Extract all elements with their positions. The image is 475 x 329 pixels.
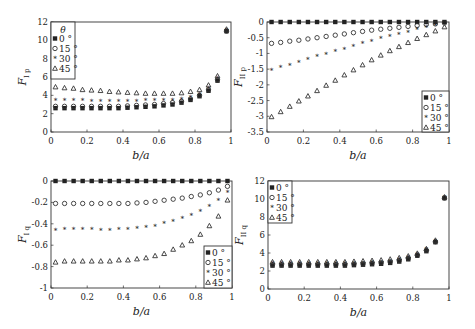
series-45deg xyxy=(53,27,229,96)
square-marker-icon xyxy=(108,179,112,183)
figure-canvas: 00.20.40.60.81024681012b/aFI p**********… xyxy=(0,0,475,329)
triangle-marker-icon xyxy=(424,32,429,36)
x-tick-label: 0.4 xyxy=(333,136,347,146)
star-marker-icon: * xyxy=(72,225,76,234)
circle-marker-icon xyxy=(269,41,273,45)
star-marker-icon: * xyxy=(99,226,103,235)
x-tick-label: 0.2 xyxy=(80,136,94,146)
circle-marker-icon xyxy=(288,39,292,43)
triangle-marker-icon xyxy=(107,259,112,263)
y-tick-label: 2 xyxy=(260,266,265,276)
triangle-marker-icon xyxy=(80,87,85,91)
triangle-marker-icon xyxy=(369,57,374,61)
star-marker-icon: * xyxy=(270,66,274,75)
circle-marker-icon xyxy=(379,27,383,31)
triangle-marker-icon xyxy=(62,259,67,263)
square-marker-icon xyxy=(388,20,392,24)
circle-marker-icon xyxy=(126,201,130,205)
triangle-marker-icon xyxy=(296,99,301,103)
y-axis-label: FII p xyxy=(232,67,247,88)
square-marker-icon xyxy=(90,179,94,183)
star-marker-icon: * xyxy=(90,97,94,106)
triangle-marker-icon xyxy=(98,259,103,263)
circle-marker-icon xyxy=(333,33,337,37)
y-tick-label: 6 xyxy=(260,230,265,240)
square-marker-icon xyxy=(379,20,383,24)
star-marker-icon: * xyxy=(333,47,337,56)
y-axis-label: FII q xyxy=(233,225,248,246)
star-marker-icon: * xyxy=(144,223,148,232)
circle-marker-icon xyxy=(315,36,319,40)
legend-square-marker-icon xyxy=(206,250,210,254)
series-15deg xyxy=(53,29,228,109)
triangle-marker-icon xyxy=(180,243,185,247)
legend: θ0 °15 °*30 °45 ° xyxy=(51,22,78,79)
legend-entry: 45 ° xyxy=(59,64,78,74)
star-marker-icon: * xyxy=(208,202,212,211)
circle-marker-icon xyxy=(135,201,139,205)
x-tick-label: 0.8 xyxy=(406,136,420,146)
y-tick-label: 12 xyxy=(254,176,265,186)
star-marker-icon: * xyxy=(297,58,301,67)
triangle-marker-icon xyxy=(152,91,157,95)
chart-panel-bl: 00.20.40.60.81-1-0.8-0.6-0.4-0.20b/aFI q… xyxy=(16,176,235,318)
y-axis-label: FI q xyxy=(16,225,31,244)
star-marker-icon: * xyxy=(180,214,184,223)
star-marker-icon: * xyxy=(171,96,175,105)
x-tick-label: 1 xyxy=(446,293,451,303)
square-marker-icon xyxy=(406,20,410,24)
legend-star-marker-icon: * xyxy=(424,113,428,122)
star-marker-icon: * xyxy=(352,42,356,51)
star-marker-icon: * xyxy=(306,55,310,64)
triangle-marker-icon xyxy=(134,90,139,94)
star-marker-icon: * xyxy=(379,34,383,43)
square-marker-icon xyxy=(80,179,84,183)
triangle-marker-icon xyxy=(153,253,158,257)
legend-square-marker-icon xyxy=(270,185,274,189)
y-tick-label: -0.6 xyxy=(32,240,48,250)
series-45deg xyxy=(53,198,230,264)
series-45deg xyxy=(269,24,447,118)
square-marker-icon xyxy=(278,20,282,24)
square-marker-icon xyxy=(306,20,310,24)
x-axis-label: b/a xyxy=(350,306,367,319)
star-marker-icon: * xyxy=(117,225,121,234)
star-marker-icon: * xyxy=(81,96,85,105)
star-marker-icon: * xyxy=(162,96,166,105)
square-marker-icon xyxy=(207,179,211,183)
circle-marker-icon xyxy=(144,200,148,204)
triangle-marker-icon xyxy=(378,53,383,57)
square-marker-icon xyxy=(144,179,148,183)
legend-square-marker-icon xyxy=(53,36,57,40)
square-marker-icon xyxy=(351,20,355,24)
legend-entry: 30 ° xyxy=(59,54,78,64)
triangle-marker-icon xyxy=(71,86,76,90)
triangle-marker-icon xyxy=(189,238,194,242)
square-marker-icon xyxy=(397,20,401,24)
triangle-marker-icon xyxy=(397,44,402,48)
circle-marker-icon xyxy=(117,201,121,205)
triangle-marker-icon xyxy=(107,89,112,93)
chart-panel-tl: 00.20.40.60.81024681012b/aFI p**********… xyxy=(16,17,234,162)
y-tick-label: -0.5 xyxy=(248,33,264,43)
x-tick-label: 0 xyxy=(48,136,53,146)
triangle-marker-icon xyxy=(342,73,347,77)
x-tick-label: 0.4 xyxy=(334,293,348,303)
star-marker-icon: * xyxy=(54,226,58,235)
legend-entry: 45 ° xyxy=(430,123,449,133)
square-marker-icon xyxy=(269,20,273,24)
star-marker-icon: * xyxy=(189,93,193,102)
star-marker-icon: * xyxy=(135,97,139,106)
y-tick-label: -0.8 xyxy=(32,262,48,272)
triangle-marker-icon xyxy=(71,259,76,263)
series-0deg xyxy=(270,196,446,268)
plot-area xyxy=(51,22,231,132)
star-marker-icon: * xyxy=(424,23,428,32)
x-tick-label: 0.8 xyxy=(188,136,202,146)
y-tick-label: -3.5 xyxy=(248,127,264,137)
triangle-marker-icon xyxy=(89,88,94,92)
square-marker-icon xyxy=(360,20,364,24)
circle-marker-icon xyxy=(360,29,364,33)
star-marker-icon: * xyxy=(315,52,319,61)
star-marker-icon: * xyxy=(108,226,112,235)
